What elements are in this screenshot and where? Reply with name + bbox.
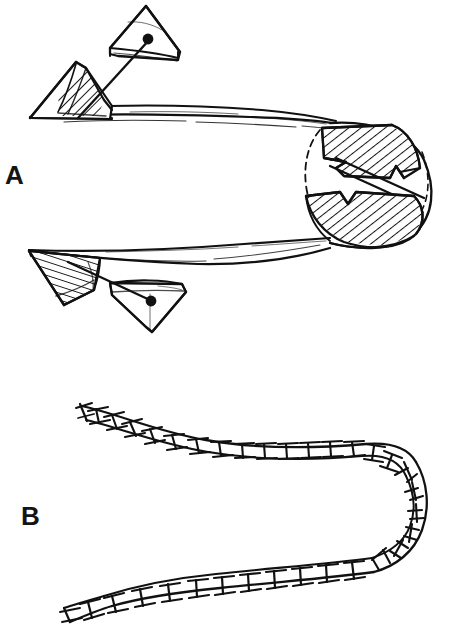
figure-root: A B	[0, 0, 451, 628]
upper-chain-rungs	[88, 407, 402, 472]
lower-outline-triangle	[110, 280, 186, 332]
upper-outline-triangle	[110, 6, 180, 61]
lower-segmented-chain	[60, 558, 374, 622]
panel-a-drawing	[29, 6, 432, 332]
panel-label-b: B	[21, 503, 40, 529]
chain-u-turn	[372, 462, 427, 572]
panel-label-a: A	[5, 162, 24, 188]
u-turn-rungs	[372, 462, 424, 570]
figure-drawing	[0, 0, 451, 628]
upper-segmented-chain	[76, 403, 416, 476]
lower-tether-node	[146, 296, 157, 307]
upper-hatched-wedge	[30, 62, 112, 119]
upper-tether-node	[143, 34, 154, 45]
panel-b-drawing	[60, 403, 427, 622]
lower-hatched-wedge	[29, 251, 100, 306]
